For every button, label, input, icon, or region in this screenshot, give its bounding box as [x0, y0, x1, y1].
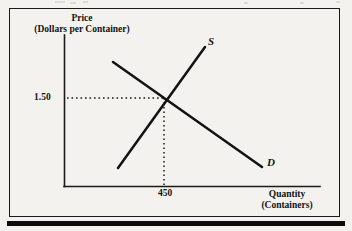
x-axis-tick-label-quantity: 450	[150, 188, 180, 199]
y-axis-tick-label-price: 1.50	[34, 92, 51, 103]
supply-curve-label: S	[208, 36, 214, 47]
x-axis-title-line2: (Containers)	[238, 200, 336, 211]
y-axis-title: Price (Dollars per Container)	[12, 13, 152, 34]
demand-curve-label: D	[267, 157, 275, 168]
x-axis-title-line1: Quantity	[238, 189, 336, 200]
supply-curve	[118, 47, 205, 168]
y-axis-title-line2: (Dollars per Container)	[12, 24, 152, 35]
x-axis-title: Quantity (Containers)	[238, 189, 336, 210]
supply-demand-plot: Price (Dollars per Container) Quantity (…	[0, 0, 352, 231]
y-axis-title-line1: Price	[12, 13, 152, 24]
bottom-divider-rule	[7, 221, 345, 226]
demand-curve	[113, 62, 262, 167]
